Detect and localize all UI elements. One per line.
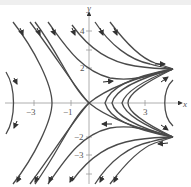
y-tick-label: −2: [74, 132, 84, 142]
x-tick-label: −1: [63, 107, 73, 117]
x-tick-label: −3: [26, 107, 36, 117]
y-axis-label: y: [86, 3, 91, 13]
x-tick-label: 3: [143, 107, 148, 117]
phase-portrait: x y −3 −1 3 4 2 −2 −3: [0, 0, 191, 187]
x-axis-label: x: [182, 99, 187, 109]
y-tick-label: 4: [80, 26, 85, 36]
y-tick-label: −3: [74, 150, 84, 160]
